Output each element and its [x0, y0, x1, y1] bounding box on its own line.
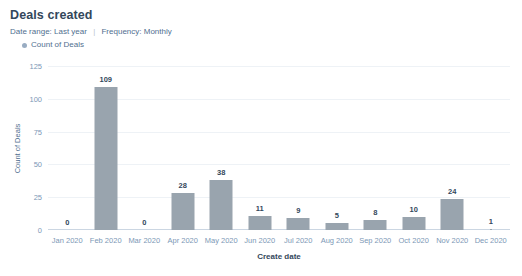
- y-axis-tick-label: 125: [29, 62, 42, 71]
- x-axis-tick-label: Oct 2020: [399, 236, 429, 245]
- y-axis-tick-label: 25: [34, 193, 42, 202]
- bar-value-label: 24: [448, 187, 456, 196]
- x-axis-tick-label: Aug 2020: [321, 236, 353, 245]
- chart-legend: Count of Deals: [22, 40, 510, 50]
- bar[interactable]: [364, 220, 387, 230]
- bar[interactable]: [402, 217, 425, 230]
- bar-value-label: 0: [65, 218, 69, 227]
- bar[interactable]: [94, 87, 117, 230]
- bar-value-label: 38: [217, 168, 225, 177]
- y-axis-tick-label: 100: [29, 94, 42, 103]
- date-range-label: Date range: Last year: [10, 27, 87, 36]
- subtitle-separator: |: [93, 26, 95, 37]
- x-axis-tick-label: Jun 2020: [244, 236, 275, 245]
- frequency-label: Frequency: Monthly: [101, 27, 171, 36]
- bar-group[interactable]: 1Dec 2020: [472, 66, 510, 230]
- y-axis-tick-label: 0: [38, 226, 42, 235]
- y-axis-title: Count of Deals: [12, 66, 24, 230]
- y-axis-title-text: Count of Deals: [14, 123, 23, 173]
- bar[interactable]: [325, 223, 348, 230]
- bar-value-label: 0: [142, 218, 146, 227]
- x-axis-title: Create date: [48, 252, 510, 261]
- bar-group[interactable]: 8Sep 2020: [356, 66, 394, 230]
- x-axis-tick-label: May 2020: [205, 236, 238, 245]
- bar-value-label: 1: [489, 217, 493, 226]
- deals-created-chart-card: Deals created Date range: Last year | Fr…: [0, 0, 522, 276]
- bar[interactable]: [210, 180, 233, 230]
- y-axis-tick-label: 75: [34, 127, 42, 136]
- bar-group[interactable]: 109Feb 2020: [86, 66, 124, 230]
- x-axis-tick-label: Sep 2020: [359, 236, 391, 245]
- page-title: Deals created: [10, 8, 510, 23]
- x-axis-tick-label: Nov 2020: [436, 236, 468, 245]
- bar-value-label: 8: [373, 208, 377, 217]
- bar[interactable]: [287, 218, 310, 230]
- bar-value-label: 28: [179, 181, 187, 190]
- chart-header: Deals created Date range: Last year | Fr…: [10, 8, 510, 50]
- x-axis-tick-label: Feb 2020: [90, 236, 122, 245]
- chart-subtitle: Date range: Last year | Frequency: Month…: [10, 26, 510, 37]
- plot-area: 0255075100125 0Jan 2020109Feb 20200Mar 2…: [48, 66, 510, 230]
- bar-group[interactable]: 0Mar 2020: [125, 66, 163, 230]
- x-axis-tick-label: Mar 2020: [128, 236, 160, 245]
- bar-value-label: 5: [335, 211, 339, 220]
- bar-group[interactable]: 28Apr 2020: [164, 66, 202, 230]
- bars-layer: 0Jan 2020109Feb 20200Mar 202028Apr 20203…: [48, 66, 510, 230]
- bar-group[interactable]: 5Aug 2020: [318, 66, 356, 230]
- bar-group[interactable]: 10Oct 2020: [395, 66, 433, 230]
- bar-value-label: 9: [296, 206, 300, 215]
- bar[interactable]: [490, 229, 492, 230]
- legend-item-label: Count of Deals: [31, 40, 84, 50]
- bar-group[interactable]: 9Jul 2020: [279, 66, 317, 230]
- legend-dot-icon: [22, 43, 27, 48]
- x-axis-tick-label: Jul 2020: [284, 236, 312, 245]
- bar[interactable]: [248, 216, 271, 230]
- x-axis-tick-label: Dec 2020: [475, 236, 507, 245]
- x-axis-tick-label: Jan 2020: [52, 236, 83, 245]
- x-axis-tick-label: Apr 2020: [168, 236, 198, 245]
- bar-value-label: 109: [99, 75, 112, 84]
- bar-group[interactable]: 11Jun 2020: [241, 66, 279, 230]
- bar-group[interactable]: 24Nov 2020: [433, 66, 471, 230]
- bar[interactable]: [441, 199, 464, 230]
- bar-group[interactable]: 0Jan 2020: [48, 66, 86, 230]
- bar-value-label: 11: [256, 204, 264, 213]
- y-axis-tick-label: 50: [34, 160, 42, 169]
- bar-group[interactable]: 38May 2020: [202, 66, 240, 230]
- bar-value-label: 10: [410, 205, 418, 214]
- bar[interactable]: [171, 193, 194, 230]
